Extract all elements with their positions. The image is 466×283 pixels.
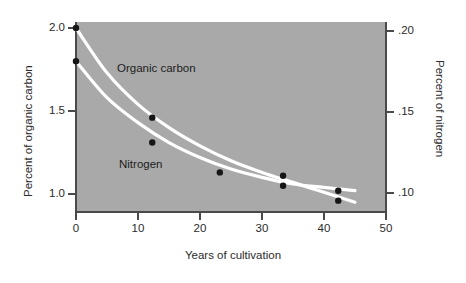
data-point: [335, 197, 341, 203]
data-point: [149, 139, 155, 145]
series-label-nitrogen: Nitrogen: [119, 158, 162, 170]
data-point: [280, 183, 286, 189]
data-point: [280, 173, 286, 179]
chart-figure: 2.0 1.5 1.0 .20 .15 .10 0 10 20 30 40 50…: [0, 0, 466, 283]
curve-nitrogen: [76, 61, 355, 190]
data-points-group: [73, 25, 342, 204]
series-plot-layer: [0, 0, 466, 283]
curves-group: [76, 28, 355, 202]
series-label-organic-carbon: Organic carbon: [117, 62, 196, 74]
data-point: [73, 25, 79, 31]
data-point: [217, 169, 223, 175]
curve-organic-carbon: [76, 28, 355, 202]
data-point: [73, 58, 79, 64]
data-point: [335, 187, 341, 193]
data-point: [149, 114, 155, 120]
